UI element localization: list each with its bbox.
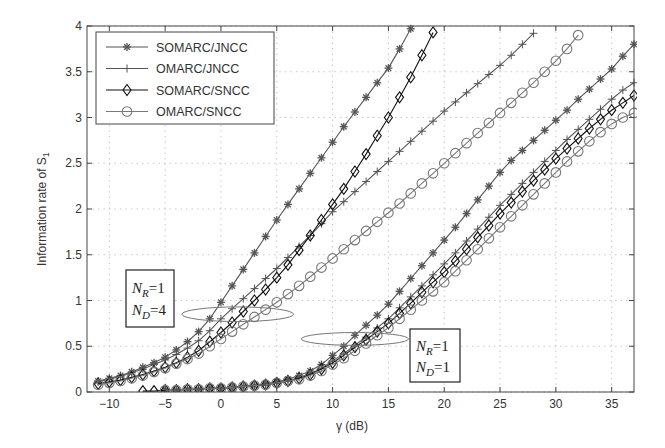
x-axis-label: γ (dB) xyxy=(336,419,368,433)
x-tick-label: 20 xyxy=(438,397,452,411)
y-tick-label: 1 xyxy=(75,294,82,308)
y-tick-label: 2.5 xyxy=(65,156,82,170)
legend: SOMARC/JNCCOMARC/JNCCSOMARC/SNCCOMARC/SN… xyxy=(96,32,274,124)
y-tick-label: 0.5 xyxy=(65,339,82,353)
y-tick-label: 1.5 xyxy=(65,248,82,262)
legend-label: OMARC/SNCC xyxy=(156,105,241,119)
legend-label: SOMARC/JNCC xyxy=(156,41,248,55)
legend-label: OMARC/JNCC xyxy=(156,62,239,76)
x-tick-label: 35 xyxy=(605,397,619,411)
y-tick-label: 3.5 xyxy=(65,65,82,79)
y-tick-label: 2 xyxy=(75,202,82,216)
x-tick-label: 10 xyxy=(326,397,340,411)
series-omarc-jncc xyxy=(161,79,638,394)
y-axis-label: Information rate of S1 xyxy=(35,152,51,266)
y-tick-label: 4 xyxy=(75,19,82,33)
x-tick-label: 25 xyxy=(493,397,507,411)
legend-label: SOMARC/SNCC xyxy=(156,84,250,98)
legend-item: SOMARC/SNCC xyxy=(106,84,250,98)
y-tick-label: 3 xyxy=(75,111,82,125)
x-tick-label: −5 xyxy=(158,397,172,411)
x-tick-label: 30 xyxy=(549,397,563,411)
x-tick-label: 5 xyxy=(273,397,280,411)
x-tick-label: −10 xyxy=(99,397,120,411)
y-tick-label: 0 xyxy=(75,385,82,399)
chart: −10−50510152025303500.511.522.533.54 SOM… xyxy=(0,0,665,448)
annotation-box-nd4: NR=1 ND=4 xyxy=(126,270,174,327)
group-ellipse xyxy=(182,307,294,322)
x-tick-label: 0 xyxy=(218,397,225,411)
annotation-box-nd1: NR=1 ND=1 xyxy=(410,329,460,382)
x-tick-label: 15 xyxy=(382,397,396,411)
